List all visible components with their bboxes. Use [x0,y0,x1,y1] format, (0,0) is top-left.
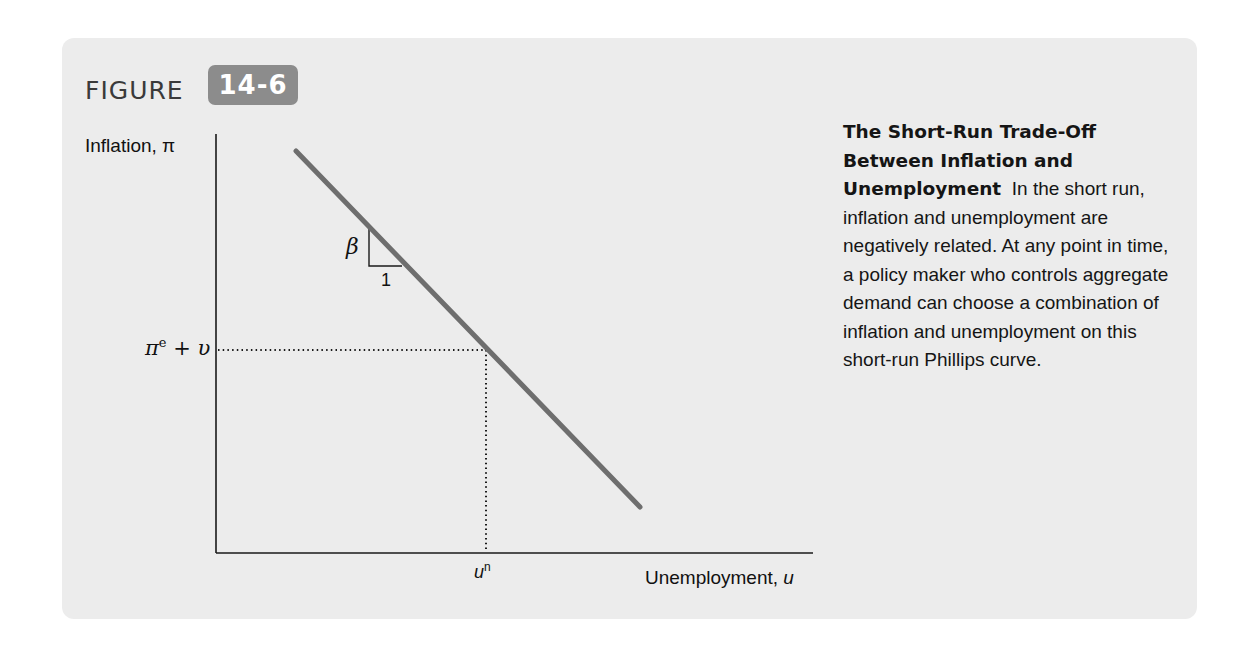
x-axis-variable: u [783,567,794,588]
caption-body: In the short run, inflation and unemploy… [843,178,1168,370]
x-axis-label: Unemployment, u [645,567,794,589]
figure-caption: The Short-Run Trade-Off Between Inflatio… [843,118,1183,375]
expected-superscript: e [159,335,167,350]
natural-rate-label: un [474,560,491,583]
natural-superscript: n [484,560,491,574]
supply-shock-term: + υ [167,336,211,360]
beta-label: β [346,234,359,259]
u-symbol: u [474,562,484,582]
x-axis-label-text: Unemployment, [645,567,783,588]
run-label: 1 [381,270,391,291]
pi-symbol: π [145,336,159,360]
short-run-phillips-curve [296,151,640,507]
expected-inflation-label: πe + υ [145,335,210,360]
y-axis-label: Inflation, π [85,135,175,157]
